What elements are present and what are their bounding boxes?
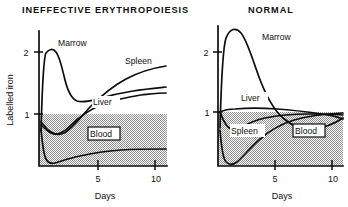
curve-label-blood-left-text: Blood bbox=[90, 129, 112, 139]
panel-right-title: NORMAL bbox=[248, 5, 294, 15]
curve-label-spleen-right: Spleen bbox=[230, 124, 265, 137]
curve-label-liver-left-text: Liver bbox=[93, 97, 112, 107]
curve-label-blood-right: Blood bbox=[293, 124, 325, 137]
x-tick-label-5-left: 5 bbox=[95, 174, 100, 184]
y-tick-label-2-left: 2 bbox=[23, 48, 28, 58]
curve-label-marrow-right: Marrow bbox=[260, 31, 300, 43]
y-tick-label-1-right: 1 bbox=[204, 108, 209, 118]
ferrokinetics-figure: INEFFECTIVE ERYTHROPOIESIS 2 1 5 10 Days… bbox=[0, 0, 348, 207]
x-tick-label-10-left: 10 bbox=[151, 174, 161, 184]
x-tick-label-5-right: 5 bbox=[272, 174, 277, 184]
curve-label-spleen-left: Spleen bbox=[124, 55, 158, 67]
panel-left-title: INEFFECTIVE ERYTHROPOIESIS bbox=[22, 5, 189, 15]
y-axis-label-left: Labelled iron bbox=[5, 74, 15, 126]
x-axis-label-left: Days bbox=[95, 191, 116, 201]
curve-label-liver-right-text: Liver bbox=[241, 93, 260, 103]
figure-root: INEFFECTIVE ERYTHROPOIESIS 2 1 5 10 Days… bbox=[0, 0, 348, 207]
curve-label-liver-left: Liver bbox=[92, 96, 120, 108]
curve-label-blood-right-text: Blood bbox=[295, 126, 317, 136]
panel-left: INEFFECTIVE ERYTHROPOIESIS 2 1 5 10 Days… bbox=[5, 5, 189, 201]
shaded-band-right bbox=[218, 112, 343, 166]
curve-label-spleen-left-text: Spleen bbox=[125, 56, 152, 66]
y-tick-label-1-left: 1 bbox=[24, 110, 29, 120]
curve-label-blood-left: Blood bbox=[88, 127, 120, 140]
x-tick-label-10-right: 10 bbox=[328, 174, 338, 184]
curve-label-marrow-left-text: Marrow bbox=[58, 38, 87, 48]
curve-label-marrow-left: Marrow bbox=[56, 37, 94, 49]
curve-label-spleen-right-text: Spleen bbox=[231, 126, 258, 136]
y-tick-label-2-right: 2 bbox=[203, 48, 208, 58]
panel-right: NORMAL 2 1 5 10 Days Marrow Liver bbox=[203, 5, 343, 201]
curve-label-marrow-right-text: Marrow bbox=[262, 32, 291, 42]
x-axis-label-right: Days bbox=[272, 191, 293, 201]
curve-label-liver-right: Liver bbox=[240, 92, 268, 104]
